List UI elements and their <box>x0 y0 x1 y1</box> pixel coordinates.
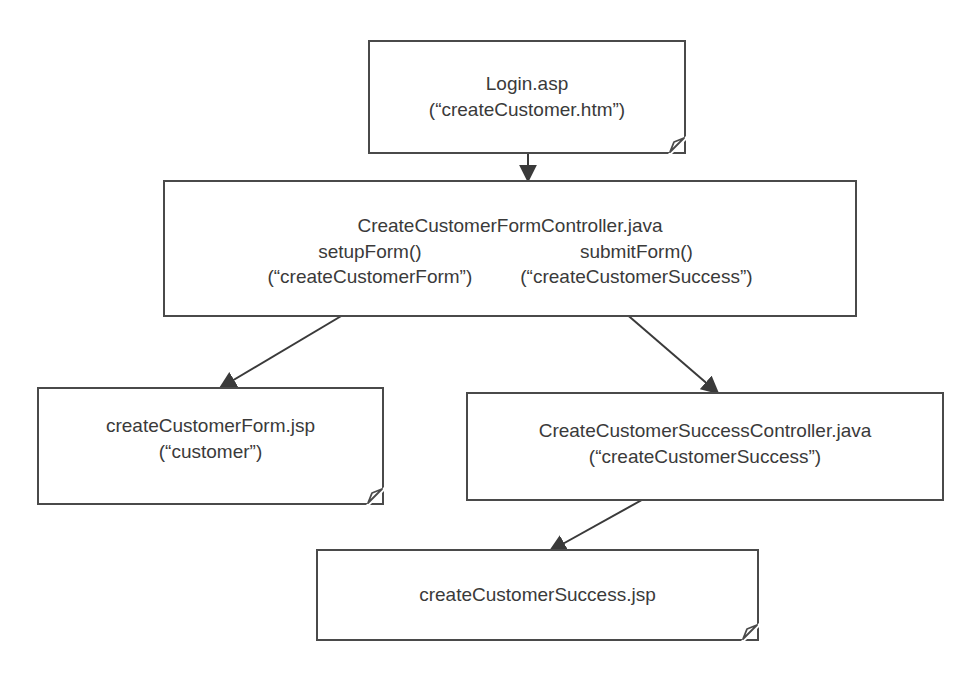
node-title: Login.asp <box>486 71 568 97</box>
node-title: CreateCustomerFormController.java <box>357 213 662 239</box>
view-name: (“createCustomerForm”) <box>267 264 472 290</box>
node-title: createCustomerSuccess.jsp <box>419 582 656 608</box>
node-create-customer-success-jsp: createCustomerSuccess.jsp <box>316 549 759 641</box>
node-view-name: (“createCustomerSuccess”) <box>589 444 821 470</box>
page-fold-icon <box>668 136 686 154</box>
node-create-customer-form-controller: CreateCustomerFormController.java setupF… <box>163 180 857 317</box>
page-fold-icon <box>741 623 759 641</box>
view-name: (“createCustomerSuccess”) <box>520 264 752 290</box>
node-login-asp: Login.asp (“createCustomer.htm”) <box>368 40 686 154</box>
node-model-name: (“customer”) <box>159 439 262 465</box>
method-name: setupForm() <box>318 239 421 265</box>
page-fold-icon <box>366 487 384 505</box>
node-create-customer-form-jsp: createCustomerForm.jsp (“customer”) <box>37 387 384 505</box>
node-title: CreateCustomerSuccessController.java <box>539 418 872 444</box>
method-name: submitForm() <box>580 239 693 265</box>
node-view-name: (“createCustomer.htm”) <box>429 97 625 123</box>
node-title: createCustomerForm.jsp <box>106 413 315 439</box>
node-create-customer-success-controller: CreateCustomerSuccessController.java (“c… <box>466 392 944 501</box>
submit-form-method: submitForm() (“createCustomerSuccess”) <box>520 239 752 290</box>
setup-form-method: setupForm() (“createCustomerForm”) <box>267 239 472 290</box>
